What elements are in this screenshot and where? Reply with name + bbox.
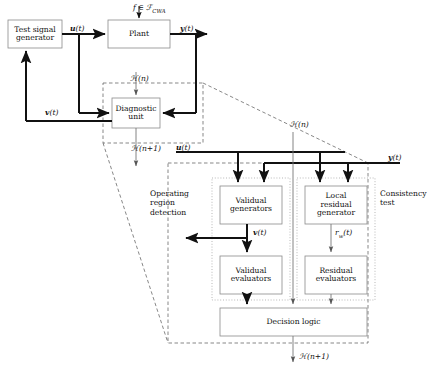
box-validual-generators — [220, 186, 282, 224]
signal-label-y-top: y(t) — [180, 24, 193, 33]
signal-label-u-lower: u(t) — [176, 143, 191, 152]
box-decision-logic — [220, 308, 367, 336]
box-residual-evaluators — [305, 256, 367, 294]
signal-label-hn1-output: ℋ(n+1) — [299, 352, 329, 361]
signal-label-u-top: u(t) — [70, 24, 85, 33]
box-validual-evaluators — [220, 256, 282, 294]
signal-label-hn-diagnostic: ℋ(n) — [130, 74, 149, 83]
signal-label-hn1-diagnostic: ℋ(n+1) — [131, 144, 161, 153]
box-diagnostic-unit — [112, 98, 160, 128]
group-label-text: Consistency test — [380, 189, 426, 207]
diagram-vector-layer — [0, 0, 430, 374]
box-local-residual-generator — [305, 186, 367, 224]
signal-label-rw-lower: rw(t) — [335, 228, 352, 239]
group-label-operating-region-detection: Operating region detection — [150, 189, 189, 217]
signal-label-fault-input: f ∈ ℱCWA — [133, 3, 166, 14]
signal-label-v-lower: v(t) — [253, 228, 266, 237]
signal-label-y-lower: y(t) — [388, 153, 401, 162]
lower-u-bus — [176, 152, 345, 182]
box-plant — [108, 20, 170, 48]
box-test-signal-generator — [8, 20, 62, 48]
group-label-text: Operating region detection — [150, 189, 189, 217]
block-rectangles — [8, 20, 367, 336]
diagram-canvas: Test signal generator Plant Diagnostic u… — [0, 0, 430, 374]
group-label-consistency-test: Consistency test — [380, 189, 426, 208]
signal-label-v-left: v(t) — [45, 108, 58, 117]
lower-y-bus — [264, 163, 400, 182]
signal-label-hn-consistency: ℋ(n) — [290, 120, 309, 129]
